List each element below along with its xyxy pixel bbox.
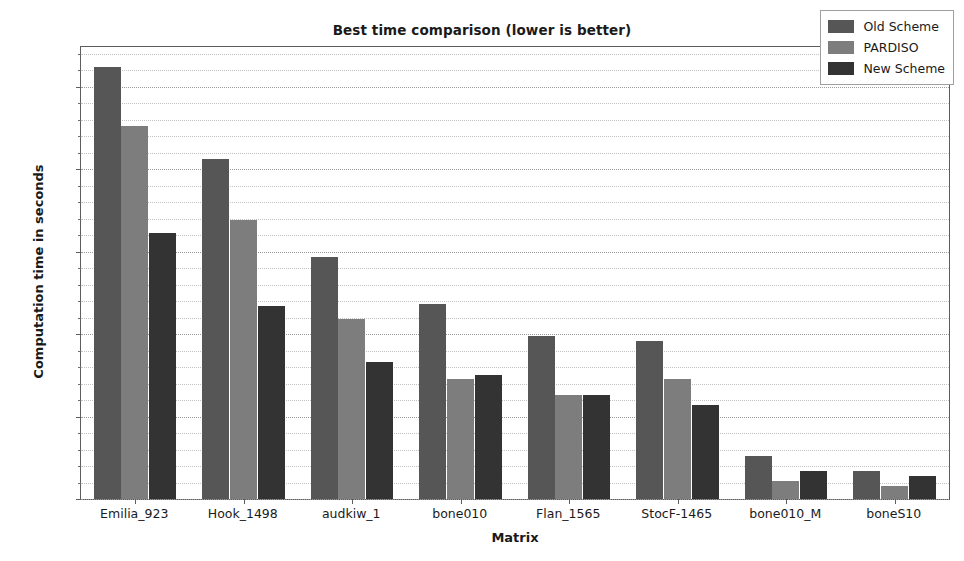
y-tick-mark-minor <box>78 235 81 236</box>
bar <box>447 379 474 499</box>
legend-label: PARDISO <box>863 40 918 55</box>
y-tick-mark <box>76 169 81 170</box>
bar <box>202 159 229 499</box>
y-tick-mark-minor <box>78 384 81 385</box>
chart-legend: Old SchemePARDISONew Scheme <box>820 10 954 85</box>
y-tick-mark-minor <box>78 219 81 220</box>
legend-swatch-icon <box>828 41 854 54</box>
bar <box>311 257 338 500</box>
bar <box>149 233 176 499</box>
chart-figure: Best time comparison (lower is better) C… <box>0 0 964 561</box>
y-tick-mark-minor <box>78 54 81 55</box>
y-tick-mark-minor <box>78 450 81 451</box>
y-tick-mark <box>76 334 81 335</box>
legend-swatch-icon <box>828 20 854 33</box>
x-tick-mark <box>135 499 136 504</box>
y-tick-mark-minor <box>78 301 81 302</box>
bar <box>881 486 908 499</box>
x-tick-mark <box>461 499 462 504</box>
bar <box>528 336 555 499</box>
y-tick-mark-minor <box>78 367 81 368</box>
y-tick-mark-minor <box>78 103 81 104</box>
y-axis-label: Computation time in seconds <box>31 62 46 482</box>
legend-swatch-icon <box>828 62 854 75</box>
x-tick-mark <box>678 499 679 504</box>
bar <box>258 306 285 499</box>
y-tick-mark-minor <box>78 483 81 484</box>
legend-item: Old Scheme <box>828 16 945 37</box>
bar <box>419 304 446 499</box>
legend-label: Old Scheme <box>863 19 939 34</box>
y-tick-mark-minor <box>78 268 81 269</box>
bar <box>366 362 393 499</box>
y-tick-mark-minor <box>78 120 81 121</box>
bar <box>692 405 719 499</box>
y-tick-mark-minor <box>78 433 81 434</box>
gridline-major <box>81 499 949 500</box>
bar <box>230 220 257 499</box>
bar <box>853 471 880 499</box>
bar <box>338 319 365 499</box>
bar <box>121 126 148 499</box>
bar <box>636 341 663 499</box>
bar <box>664 379 691 499</box>
y-tick-mark-minor <box>78 186 81 187</box>
y-tick-mark-minor <box>78 136 81 137</box>
bar <box>583 395 610 499</box>
bar <box>94 67 121 499</box>
y-tick-mark-minor <box>78 153 81 154</box>
bar <box>745 456 772 499</box>
bar <box>772 481 799 499</box>
plot-area <box>80 46 950 500</box>
y-tick-mark-minor <box>78 70 81 71</box>
y-tick-mark-minor <box>78 466 81 467</box>
y-tick-mark-minor <box>78 285 81 286</box>
legend-item: New Scheme <box>828 58 945 79</box>
y-tick-mark-minor <box>78 318 81 319</box>
y-tick-mark <box>76 252 81 253</box>
y-tick-mark-minor <box>78 351 81 352</box>
y-tick-mark-minor <box>78 202 81 203</box>
x-tick-mark <box>569 499 570 504</box>
bar <box>909 476 936 499</box>
y-tick-mark-minor <box>78 400 81 401</box>
x-tick-mark <box>244 499 245 504</box>
y-tick-mark <box>76 499 81 500</box>
legend-label: New Scheme <box>863 61 945 76</box>
x-tick-mark <box>895 499 896 504</box>
y-tick-mark <box>76 417 81 418</box>
x-tick-mark <box>352 499 353 504</box>
bar <box>475 375 502 499</box>
bars-layer <box>81 47 949 499</box>
x-axis-label: Matrix <box>80 530 950 545</box>
x-tick-label: boneS10 <box>824 506 964 521</box>
x-tick-mark <box>786 499 787 504</box>
chart-title: Best time comparison (lower is better) <box>0 22 964 38</box>
bar <box>800 471 827 499</box>
legend-item: PARDISO <box>828 37 945 58</box>
y-tick-mark <box>76 87 81 88</box>
bar <box>555 395 582 499</box>
